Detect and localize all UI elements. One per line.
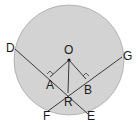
geometry-diagram: O A B R D E F G <box>0 0 138 122</box>
label-g: G <box>123 50 132 62</box>
label-f: F <box>43 110 50 122</box>
label-e: E <box>87 110 95 122</box>
label-r: R <box>64 96 73 108</box>
label-d: D <box>6 42 15 54</box>
label-a: A <box>46 79 54 91</box>
label-o: O <box>64 44 73 56</box>
center-point-o <box>67 58 70 61</box>
label-b: B <box>84 84 92 96</box>
